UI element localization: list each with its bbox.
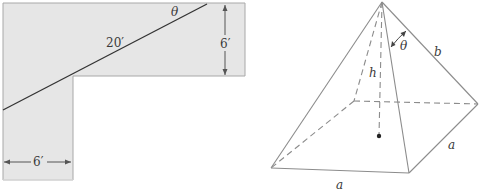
angle-theta-label: θ bbox=[171, 5, 179, 19]
base-side-front-label: a bbox=[336, 178, 343, 192]
ladder-length-label: 20′ bbox=[106, 36, 124, 50]
pyramid-edge-front-right bbox=[382, 2, 409, 173]
corridor-height-label: 6′ bbox=[220, 37, 231, 51]
pyramid-edge-back-right bbox=[382, 2, 478, 104]
pyramid-figure bbox=[271, 2, 478, 173]
diagram-canvas: θ 20′ 6′ 6′ θ b h a a bbox=[0, 0, 479, 195]
pyramid-edge-front-left bbox=[271, 2, 382, 168]
slant-edge-b-label: b bbox=[434, 45, 442, 59]
pyramid-theta-label: θ bbox=[400, 39, 408, 53]
base-center-point bbox=[377, 134, 381, 138]
base-edge-front bbox=[271, 168, 409, 173]
base-edge-right bbox=[409, 104, 478, 173]
height-h-label: h bbox=[369, 66, 377, 80]
base-side-right-label: a bbox=[448, 138, 455, 152]
corridor-figure: θ 20′ 6′ 6′ bbox=[3, 3, 245, 180]
hidden-edges bbox=[271, 2, 478, 168]
corridor-width-label: 6′ bbox=[33, 155, 44, 169]
height-line bbox=[379, 2, 382, 136]
